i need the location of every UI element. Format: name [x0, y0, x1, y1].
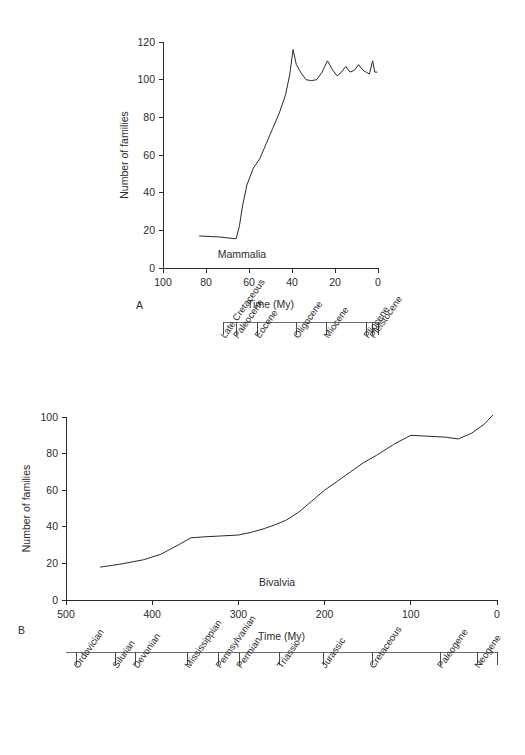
- scale-interval-label-0: Ordovician: [71, 627, 106, 671]
- y-tick-label: 80: [46, 447, 58, 459]
- panel-a-chart: 020406080100120100806040200 Mammalia Tim…: [0, 0, 525, 400]
- panel-a-y-axis-title: Number of families: [118, 111, 130, 199]
- data-series-line: [200, 50, 377, 239]
- x-tick-label: 100: [402, 608, 420, 620]
- scale-interval-label-6: Triassic: [274, 637, 302, 670]
- x-tick-label: 0: [494, 608, 500, 620]
- y-tick-label: 120: [137, 36, 155, 48]
- y-tick-label: 40: [143, 186, 155, 198]
- x-tick-label: 200: [316, 608, 334, 620]
- panel-b-chart: 0204060801005004003002001000 Bivalvia Ti…: [0, 400, 525, 755]
- y-tick-label: 0: [52, 594, 58, 606]
- x-tick-label: 40: [286, 276, 298, 288]
- y-tick-label: 40: [46, 520, 58, 532]
- y-tick-label: 20: [46, 557, 58, 569]
- panel-b-x-axis-title: Time (My): [258, 630, 305, 642]
- x-tick-label: 0: [375, 276, 381, 288]
- data-series-line: [100, 415, 492, 567]
- x-tick-label: 80: [200, 276, 212, 288]
- panel-b-data-curve: [100, 415, 492, 567]
- panel-a-letter: A: [136, 299, 143, 311]
- y-tick-label: 60: [46, 484, 58, 496]
- x-tick-label: 100: [154, 276, 172, 288]
- panel-b-y-axis-title: Number of families: [20, 465, 32, 553]
- scale-interval-label-3: Oligocene: [291, 299, 325, 340]
- panel-b-axes: 0204060801005004003002001000: [40, 411, 500, 620]
- x-tick-label: 500: [57, 608, 75, 620]
- panel-b-letter: B: [18, 624, 25, 636]
- scale-interval-label-7: Jurassic: [318, 635, 347, 670]
- scale-interval-label-10: Neogene: [472, 632, 503, 670]
- x-tick-label: 20: [329, 276, 341, 288]
- panel-a-data-curve: [200, 50, 377, 239]
- y-tick-label: 0: [149, 262, 155, 274]
- scale-interval-label-9: Paleogene: [435, 627, 470, 671]
- y-tick-label: 60: [143, 149, 155, 161]
- figure-root: 020406080100120100806040200 Mammalia Tim…: [0, 0, 525, 755]
- y-tick-label: 80: [143, 111, 155, 123]
- scale-interval-label-8: Cretaceous: [367, 624, 404, 670]
- y-tick-label: 20: [143, 224, 155, 236]
- y-tick-label: 100: [40, 411, 58, 423]
- panel-a-series-label: Mammalia: [218, 248, 267, 260]
- scale-interval-label-2: Devonian: [130, 631, 162, 670]
- y-tick-label: 100: [137, 73, 155, 85]
- x-tick-label: 400: [143, 608, 161, 620]
- panel-b-series-label: Bivalvia: [259, 576, 295, 588]
